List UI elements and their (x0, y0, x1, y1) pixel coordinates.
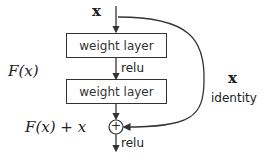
relu-label-mid: relu (121, 62, 144, 74)
relu-label-out: relu (121, 137, 144, 149)
sum-output-label: F(x) + x (25, 120, 86, 135)
identity-label: identity (211, 92, 257, 104)
sum-symbol: + (111, 120, 121, 132)
weight-layer-2: weight layer (66, 79, 167, 104)
weight-layer-1: weight layer (66, 33, 167, 58)
residual-block-diagram: x weight layer relu weight layer + relu … (0, 0, 266, 162)
input-label: x (92, 4, 101, 19)
residual-function-label: F(x) (8, 64, 39, 79)
shortcut-x-label: x (228, 71, 237, 86)
